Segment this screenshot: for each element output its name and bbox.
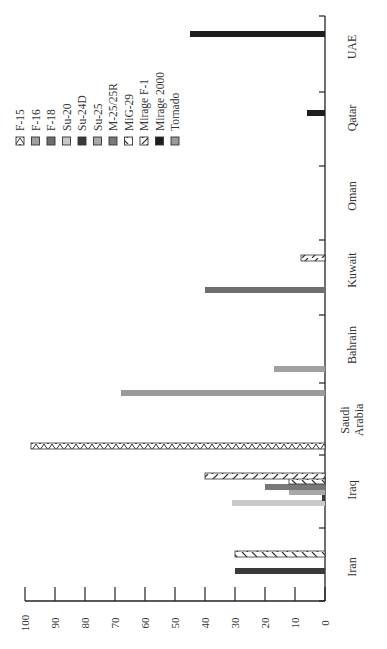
bar-iran-su-24d (235, 568, 325, 574)
legend-label: Mirage 2000 (154, 72, 167, 131)
legend-label: F-16 (30, 109, 42, 131)
legend-swatch (94, 137, 102, 145)
bar-kuwait-f-18 (205, 287, 325, 293)
bar-iraq-su-20 (232, 500, 325, 506)
category-label: Bahrain (345, 326, 359, 364)
bar-bahrain-f-16 (274, 366, 325, 372)
legend-label: Su-24D (76, 95, 88, 131)
value-tick-label: 70 (109, 617, 121, 629)
legend-swatch (125, 137, 133, 145)
bar-saudi-arabia-tornado (121, 390, 325, 396)
category-label: Oman (345, 181, 359, 210)
value-tick-label: 20 (259, 617, 271, 629)
category-label: Iran (345, 557, 359, 576)
bar-iraq-m-25-25r (265, 484, 325, 490)
bar-iraq-mirage-f-1 (205, 473, 325, 479)
legend-label: Su-25 (92, 103, 104, 131)
legend-swatch (140, 137, 148, 145)
legend-swatch (47, 137, 55, 145)
value-tick-label: 40 (199, 617, 211, 629)
legend-swatch (16, 137, 24, 145)
category-label: Qatar (345, 105, 359, 132)
bar-uae-mirage-2000 (190, 31, 325, 37)
value-tick-label: 30 (229, 617, 241, 629)
value-tick-label: 90 (49, 617, 61, 629)
value-tick-label: 100 (19, 614, 31, 631)
category-axis-labels: IranIraqSaudiArabiaBahrainKuwaitOmanQata… (338, 35, 366, 577)
bar-iraq-su-24d (322, 495, 325, 501)
category-label: Iraq (345, 480, 359, 499)
legend-label: Su-20 (61, 103, 73, 131)
value-tick-label: 80 (79, 617, 91, 629)
legend-swatch (156, 137, 164, 145)
legend-swatch (171, 137, 179, 145)
legend-swatch (63, 137, 71, 145)
legend-label: F-18 (45, 109, 57, 131)
value-tick-label: 0 (319, 620, 331, 626)
category-label: Kuwait (345, 252, 359, 288)
legend-label: M-25/25R (107, 83, 119, 131)
category-label: Arabia (352, 403, 366, 436)
value-tick-label: 50 (169, 617, 181, 629)
legend-label: F-15 (14, 109, 26, 131)
value-tick-label: 60 (139, 617, 151, 629)
legend-label: Mirage F-1 (138, 79, 151, 131)
legend-swatch (109, 137, 117, 145)
chart-legend: F-15F-16F-18Su-20Su-24DSu-25M-25/25RMiG-… (14, 72, 181, 145)
bar-saudi-arabia-f-15 (31, 443, 325, 449)
bar-kuwait-mirage-f-1 (301, 255, 325, 261)
legend-label: MiG-29 (123, 94, 135, 131)
legend-label: Tornado (169, 93, 181, 131)
value-axis-ticks: 0102030405060708090100 (19, 587, 331, 631)
bar-iran-mig-29 (235, 551, 325, 557)
legend-swatch (78, 137, 86, 145)
legend-swatch (32, 137, 40, 145)
bar-chart: 0102030405060708090100 IranIraqSaudiArab… (0, 0, 387, 649)
category-label: Saudi (338, 406, 352, 434)
bar-qatar-mirage-2000 (307, 110, 325, 116)
category-label: UAE (345, 35, 359, 60)
value-tick-label: 10 (289, 617, 301, 629)
